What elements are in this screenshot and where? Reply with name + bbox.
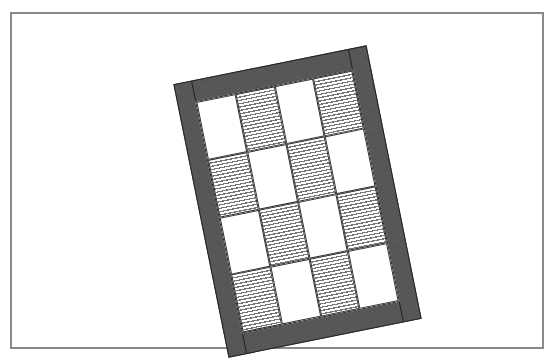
figure-frame bbox=[10, 12, 544, 349]
quilt bbox=[173, 45, 421, 357]
